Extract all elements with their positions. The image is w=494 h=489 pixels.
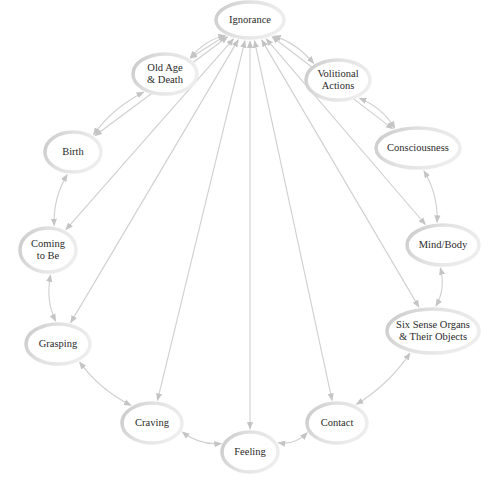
node-coming-to-be — [20, 228, 76, 272]
node-ellipse-mind-body — [407, 225, 479, 265]
cycle-arrow-grasping-to-coming-to-be — [49, 275, 56, 321]
node-contact — [307, 403, 367, 443]
cycle-arrow-feeling-to-craving — [182, 432, 221, 444]
node-ellipse-birth — [45, 132, 101, 172]
cycle-arrow-mind-body-to-six-sense-organs — [436, 268, 442, 306]
node-ignorance — [216, 2, 284, 38]
node-volitional-actions — [306, 60, 370, 100]
node-ellipse-contact — [307, 403, 367, 443]
cycle-arrow-coming-to-be-to-birth — [54, 175, 67, 226]
node-ellipse-six-sense-organs — [387, 309, 479, 353]
diagram-canvas — [0, 0, 494, 489]
cycle-arrow-birth-to-old-age-death — [93, 92, 143, 135]
cycle-arrow-ignorance-to-volitional-actions — [274, 36, 314, 63]
node-craving — [122, 403, 182, 443]
edges-layer — [49, 36, 442, 444]
node-ellipse-consciousness — [376, 128, 460, 168]
node-consciousness — [376, 128, 460, 168]
node-mind-body — [407, 225, 479, 265]
node-ellipse-coming-to-be — [20, 228, 76, 272]
cycle-arrow-volitional-actions-to-consciousness — [359, 98, 394, 128]
node-ellipse-old-age-death — [133, 54, 197, 94]
node-feeling — [222, 432, 278, 472]
node-ellipse-ignorance — [216, 2, 284, 38]
cycle-arrow-contact-to-feeling — [278, 433, 307, 443]
node-old-age-death — [133, 54, 197, 94]
cycle-arrow-six-sense-organs-to-contact — [356, 353, 410, 404]
dependent-origination-diagram: IgnoranceVolitionalActionsConsciousnessM… — [0, 0, 494, 489]
cycle-arrow-craving-to-grasping — [80, 362, 131, 405]
node-six-sense-organs — [387, 309, 479, 353]
node-ellipse-volitional-actions — [306, 60, 370, 100]
node-ellipse-craving — [122, 403, 182, 443]
cycle-arrow-consciousness-to-mind-body — [424, 171, 437, 223]
node-birth — [45, 132, 101, 172]
node-ellipse-grasping — [26, 324, 90, 364]
node-ellipse-feeling — [222, 432, 278, 472]
node-grasping — [26, 324, 90, 364]
